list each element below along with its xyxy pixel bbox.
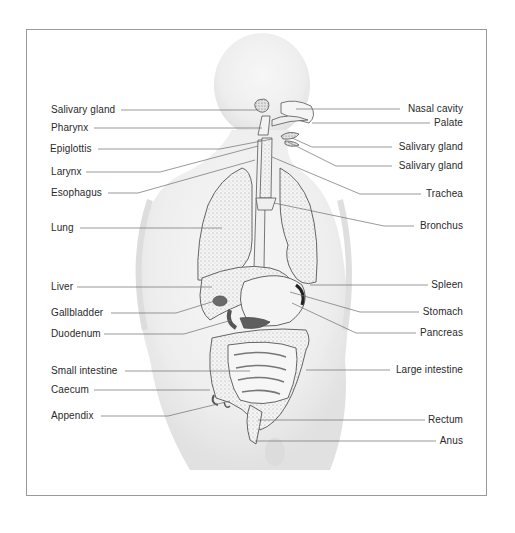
label-rectum: Rectum [428, 414, 463, 426]
label-liver: Liver [51, 281, 73, 293]
label-salivary-gland: Salivary gland [399, 141, 463, 153]
bronchus-junction [256, 198, 276, 210]
label-lung: Lung [51, 222, 74, 234]
label-large-intestine: Large intestine [396, 364, 463, 376]
label-esophagus: Esophagus [51, 187, 102, 199]
label-caecum: Caecum [51, 384, 89, 396]
label-epiglottis: Epiglottis [50, 143, 92, 155]
label-gallbladder: Gallbladder [51, 307, 103, 319]
label-nasal-cavity: Nasal cavity [408, 103, 463, 115]
label-spleen: Spleen [431, 279, 463, 291]
anatomy-illustration [0, 0, 515, 533]
label-bronchus: Bronchus [420, 220, 463, 232]
leader-line-salivary-gland [292, 138, 392, 147]
label-trachea: Trachea [426, 188, 463, 200]
label-stomach: Stomach [423, 306, 463, 318]
label-pancreas: Pancreas [420, 327, 463, 339]
label-salivary-gland: Salivary gland [399, 160, 463, 172]
leader-line-salivary-gland [288, 142, 392, 166]
trachea [260, 138, 272, 198]
label-appendix: Appendix [51, 410, 94, 422]
label-duodenum: Duodenum [51, 328, 101, 340]
small-intestine [228, 342, 297, 403]
label-anus: Anus [440, 435, 463, 447]
label-small-intestine: Small intestine [51, 365, 118, 377]
label-palate: Palate [434, 117, 463, 129]
label-pharynx: Pharynx [51, 122, 88, 134]
label-salivary-gland: Salivary gland [51, 104, 115, 116]
label-larynx: Larynx [51, 166, 82, 178]
